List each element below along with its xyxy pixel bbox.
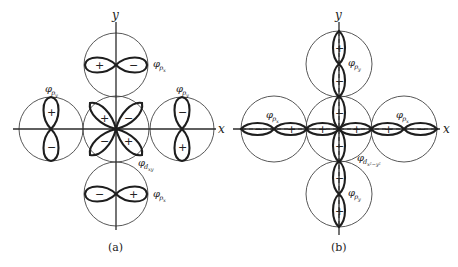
sign-minus: − [254, 123, 263, 136]
sign-plus: + [287, 123, 296, 136]
orbital-label: φ p y [348, 57, 361, 73]
sign-minus: − [417, 123, 426, 136]
svg-text:x²−y²: x²−y² [367, 161, 381, 168]
sign-plus: + [100, 112, 109, 125]
sign-plus: + [352, 123, 361, 136]
orbital-right-px: + − φ p x [371, 109, 437, 136]
orbital-label: φ p y [348, 187, 361, 203]
sign-plus: + [335, 205, 344, 218]
orbital-top-py: + − φ p y [333, 31, 361, 97]
orbital-bottom-py: − + φ p y [333, 161, 361, 227]
orbital-label: φ p x [396, 109, 409, 124]
sign-plus: + [124, 135, 133, 148]
sign-minus: − [47, 141, 56, 154]
svg-text:y: y [54, 92, 58, 99]
y-axis-label: y [111, 8, 119, 22]
svg-text:y: y [357, 66, 361, 73]
sign-minus: − [335, 140, 344, 153]
sign-minus: − [95, 188, 104, 201]
sign-plus: + [95, 59, 104, 72]
x-axis-label: x [443, 122, 450, 136]
sign-minus: − [178, 106, 187, 119]
sign-plus: + [129, 188, 138, 201]
orbital-right-py: − + φ p y [175, 83, 190, 161]
svg-text:x: x [163, 67, 166, 73]
sign-plus: + [318, 123, 327, 136]
sign-minus: − [335, 75, 344, 88]
svg-text:x: x [406, 118, 409, 124]
orbital-left-px: − + φ p x [241, 109, 307, 136]
sign-plus: + [178, 141, 187, 154]
orbital-label: φ p x [153, 188, 166, 203]
svg-text:y: y [357, 196, 361, 203]
orbital-overlap-figure: x y + − φ p x − + φ p x [0, 0, 458, 267]
svg-text:x: x [163, 197, 166, 203]
panel-a: x y + − φ p x − + φ p x [13, 8, 225, 254]
orbital-label: φ d x²−y² [357, 152, 381, 168]
sign-minus: − [100, 135, 109, 148]
sign-plus: + [335, 42, 344, 55]
orbital-bottom-px: − + φ p x [85, 187, 166, 204]
sign-plus: + [47, 106, 56, 119]
sign-minus: − [335, 107, 344, 120]
orbital-label: φ d xy [138, 157, 154, 173]
caption-b: (b) [331, 241, 347, 254]
svg-text:xy: xy [148, 166, 154, 173]
sign-minus: − [129, 59, 138, 72]
svg-text:x: x [276, 118, 279, 124]
sign-plus: + [384, 123, 393, 136]
orbital-label: φ p x [153, 58, 166, 73]
sign-minus: − [124, 112, 133, 125]
x-axis-label: x [218, 122, 225, 136]
orbital-label: φ p y [176, 83, 189, 99]
orbital-top-px: + − φ p x [85, 58, 166, 74]
sign-minus: − [335, 172, 344, 185]
orbital-left-py: + − φ p y [44, 83, 59, 161]
panel-b: x y + − φ p y − + φ p y [233, 8, 450, 254]
caption-a: (a) [108, 241, 123, 254]
orbital-label: φ p y [45, 83, 58, 99]
orbital-center-dx2y2: + + − − φ d x²−y² [306, 96, 381, 168]
orbital-label: φ p x [266, 109, 279, 124]
y-axis-label: y [334, 8, 342, 22]
svg-text:y: y [185, 92, 189, 99]
